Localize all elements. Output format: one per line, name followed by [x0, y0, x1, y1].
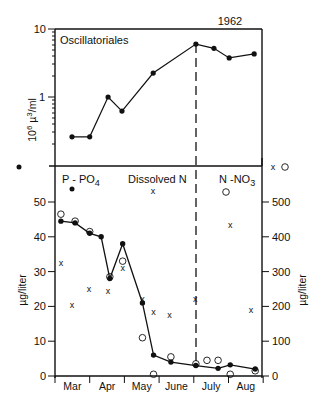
chart-canvas: 10 1 106 µ3/ml Oscillatoriales 1962 0102… [0, 0, 322, 406]
oscillatoriales-point [211, 46, 216, 51]
p-po4-series [58, 218, 258, 371]
p-po4-point [228, 362, 233, 367]
right-tick-label: 100 [272, 335, 290, 347]
left-tick-label: 40 [34, 231, 46, 243]
oscillatoriales-point [151, 70, 156, 75]
dissolved-n-point: x [228, 220, 233, 230]
p-po4-point [98, 234, 103, 239]
p-po4-point [58, 218, 63, 223]
dissolved-n-point: x [167, 310, 172, 320]
dissolved-n-point: x [106, 286, 111, 296]
oscillatoriales-point [119, 109, 124, 114]
dissolved-n-point: x [249, 305, 254, 315]
lower-left-y-axis: 01020304050 [34, 196, 55, 382]
p-po4-point [215, 366, 220, 371]
legend-n-no3-text: N -NO [219, 173, 251, 185]
p-po4-point [120, 241, 125, 246]
month-label: July [202, 380, 221, 392]
legend-n-no3-marker [223, 189, 230, 196]
legend-dissolved-n: Dissolved N [128, 173, 187, 185]
plot-frame [49, 29, 262, 378]
upper-y-axis [48, 29, 55, 144]
n-no3-point [58, 211, 65, 218]
p-po4-line [61, 221, 255, 369]
offscale-n-no3-marker [282, 164, 289, 171]
oscillatoriales-point [227, 55, 232, 60]
n-no3-point [204, 357, 211, 364]
left-tick-label: 50 [34, 196, 46, 208]
month-label: June [165, 380, 188, 392]
month-label: May [132, 380, 153, 392]
left-tick-label: 30 [34, 266, 46, 278]
month-label: Aug [237, 380, 256, 392]
n-no3-series [58, 211, 259, 378]
legend-n-no3: N -NO3 [219, 173, 255, 188]
dissolved-n-point: x [151, 307, 156, 317]
left-tick-label: 20 [34, 300, 46, 312]
upper-y-axis-label: 106 µ3/ml [25, 98, 38, 142]
right-tick-label: 400 [272, 231, 290, 243]
month-label: Mar [63, 380, 82, 392]
upper-ylabel-base: 10 [26, 130, 38, 142]
oscillatoriales-point [105, 94, 110, 99]
right-y-axis-label: µg/liter [296, 274, 308, 306]
dissolved-n-point: x [59, 258, 64, 268]
x-axis: MarAprMayJuneJulyAug [55, 376, 263, 392]
p-po4-point [151, 352, 156, 357]
legend-p-po4-sub: 4 [95, 178, 100, 188]
legend-n-no3-sub: 3 [250, 178, 255, 188]
oscillatoriales-series [69, 41, 256, 139]
legend-p-po4-marker [70, 187, 75, 192]
dissolved-n-point: x [193, 294, 198, 304]
legend-p-po4: P - PO4 [62, 173, 100, 188]
left-tick-label: 10 [34, 335, 46, 347]
n-no3-point [215, 357, 222, 364]
legend-p-po4-text: P - PO [62, 173, 95, 185]
upper-chart-title: Oscillatoriales [60, 34, 129, 46]
right-tick-label: 200 [272, 300, 290, 312]
offscale-p-po4-marker [17, 165, 22, 170]
right-tick-label: 500 [272, 196, 290, 208]
n-no3-point [139, 334, 146, 341]
right-tick-label: 300 [272, 266, 290, 278]
oscillatoriales-point [87, 134, 92, 139]
oscillatoriales-point [252, 51, 257, 56]
right-tick-label: 0 [272, 370, 278, 382]
oscillatoriales-point [193, 41, 198, 46]
legend-dissolved-n-marker: x [151, 186, 156, 196]
upper-tick-10: 10 [34, 23, 46, 35]
offscale-dissolved-n-marker: x [271, 162, 276, 172]
n-no3-point [168, 354, 175, 361]
dissolved-n-point: x [140, 294, 145, 304]
month-label: Apr [99, 380, 116, 392]
dissolved-n-point: x [87, 284, 92, 294]
upper-tick-1: 1 [39, 91, 45, 103]
upper-ylabel-per-ml: /ml [26, 98, 38, 112]
left-y-axis-label: µg/liter [16, 274, 28, 306]
oscillatoriales-point [69, 134, 74, 139]
year-label: 1962 [218, 15, 242, 27]
left-tick-label: 0 [40, 370, 46, 382]
upper-ylabel-mu: µ [26, 117, 38, 126]
lower-right-y-axis: 0100200300400500 [262, 196, 290, 382]
dissolved-n-point: x [70, 300, 75, 310]
